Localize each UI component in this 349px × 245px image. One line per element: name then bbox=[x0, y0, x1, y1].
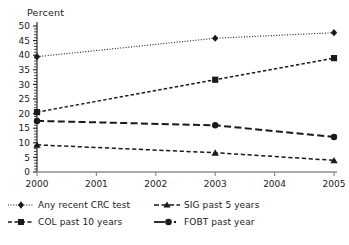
dashed-line-circle-icon bbox=[154, 216, 180, 228]
data-point-marker bbox=[34, 109, 40, 115]
y-tick-label: 10 bbox=[19, 138, 31, 148]
legend-row: Any recent CRC test SIG past 5 years bbox=[8, 196, 344, 213]
legend-item-sig-past-5-years[interactable]: SIG past 5 years bbox=[154, 199, 259, 211]
series-fobt-past-year bbox=[34, 118, 337, 140]
data-point-marker bbox=[212, 35, 218, 42]
data-point-marker bbox=[34, 53, 40, 60]
legend-label: FOBT past year bbox=[184, 217, 255, 227]
series-col-past-10-years bbox=[34, 55, 337, 115]
x-tick-label: 2000 bbox=[26, 179, 49, 189]
series-line bbox=[37, 33, 334, 57]
y-tick-label: 15 bbox=[19, 123, 30, 133]
dashed-line-square-icon bbox=[8, 216, 34, 228]
chart-legend: Any recent CRC test SIG past 5 years COL… bbox=[8, 196, 344, 230]
x-tick-label: 2001 bbox=[85, 179, 108, 189]
chart-container: Percent 05101520253035404550 20002001200… bbox=[0, 0, 349, 245]
x-axis: 200020012002200320042005 bbox=[26, 172, 346, 189]
dashed-line-triangle-icon bbox=[154, 199, 180, 211]
data-point-marker bbox=[212, 122, 218, 128]
series-line bbox=[37, 121, 334, 137]
x-tick-label: 2003 bbox=[204, 179, 227, 189]
y-tick-label: 25 bbox=[19, 94, 30, 104]
series-line bbox=[37, 58, 334, 112]
legend-label: Any recent CRC test bbox=[38, 200, 130, 210]
series-sig-past-5-years bbox=[33, 141, 337, 163]
y-tick-label: 30 bbox=[19, 80, 31, 90]
y-tick-label: 35 bbox=[19, 65, 30, 75]
y-tick-label: 40 bbox=[19, 50, 31, 60]
y-tick-label: 0 bbox=[24, 167, 30, 177]
y-tick-label: 50 bbox=[19, 21, 31, 31]
dotted-line-diamond-icon bbox=[8, 199, 34, 211]
caption-fragment bbox=[6, 238, 126, 243]
data-point-marker bbox=[331, 55, 337, 61]
y-axis: 05101520253035404550 bbox=[19, 21, 37, 177]
data-series-group bbox=[33, 29, 337, 163]
data-point-marker bbox=[331, 29, 337, 36]
y-tick-label: 5 bbox=[24, 153, 30, 163]
x-tick-label: 2005 bbox=[323, 179, 346, 189]
legend-label: SIG past 5 years bbox=[184, 200, 259, 210]
data-point-marker bbox=[212, 77, 218, 83]
series-any-recent-crc-test bbox=[34, 29, 337, 60]
data-point-marker bbox=[34, 118, 40, 124]
series-line bbox=[37, 145, 334, 160]
x-tick-label: 2002 bbox=[144, 179, 167, 189]
legend-row: COL past 10 years FOBT past year bbox=[8, 213, 344, 230]
y-tick-label: 20 bbox=[19, 109, 31, 119]
legend-item-col-past-10-years[interactable]: COL past 10 years bbox=[8, 216, 154, 228]
legend-item-fobt-past-year[interactable]: FOBT past year bbox=[154, 216, 255, 228]
x-tick-label: 2004 bbox=[263, 179, 286, 189]
y-tick-label: 45 bbox=[19, 36, 30, 46]
legend-label: COL past 10 years bbox=[38, 217, 122, 227]
legend-item-any-recent-crc-test[interactable]: Any recent CRC test bbox=[8, 199, 154, 211]
data-point-marker bbox=[331, 134, 337, 140]
